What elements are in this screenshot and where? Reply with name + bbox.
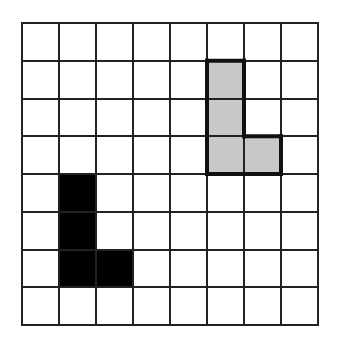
grid-diagram — [22, 23, 318, 325]
shape-outlines — [17, 18, 323, 330]
